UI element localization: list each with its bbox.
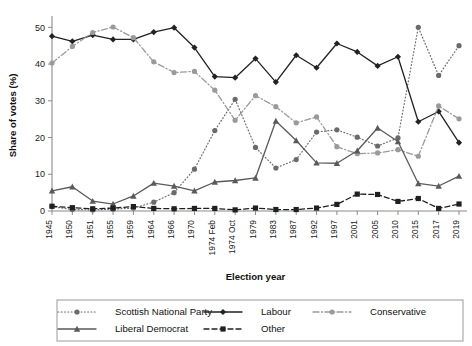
data-point[interactable] (151, 59, 156, 64)
series-other[interactable] (49, 192, 461, 213)
data-point[interactable] (212, 128, 217, 133)
data-point[interactable] (233, 207, 238, 212)
data-point[interactable] (172, 190, 177, 195)
data-point[interactable] (416, 25, 421, 30)
x-tick-label[interactable]: 1983 (268, 220, 278, 239)
data-point[interactable] (233, 118, 238, 123)
y-tick-label[interactable]: 50 (35, 23, 45, 33)
data-point[interactable] (415, 119, 421, 125)
data-point[interactable] (233, 97, 238, 102)
data-point[interactable] (334, 144, 339, 149)
x-tick-label[interactable]: 1959 (125, 220, 135, 239)
x-tick-label[interactable]: 1992 (309, 220, 319, 239)
data-point[interactable] (294, 207, 299, 212)
legend-marker[interactable] (220, 326, 225, 331)
data-point[interactable] (212, 206, 217, 211)
data-point[interactable] (212, 88, 217, 93)
data-point[interactable] (49, 60, 54, 65)
x-tick-label[interactable]: 2001 (349, 220, 359, 239)
x-axis-title[interactable]: Election year (226, 271, 286, 282)
x-tick-label[interactable]: 1966 (166, 220, 176, 239)
data-point[interactable] (110, 36, 116, 42)
data-point[interactable] (253, 145, 258, 150)
series-line[interactable] (52, 121, 459, 204)
data-point[interactable] (314, 114, 319, 119)
data-point[interactable] (273, 165, 278, 170)
data-point[interactable] (70, 44, 75, 49)
data-point[interactable] (253, 93, 258, 98)
x-tick-label[interactable]: 1955 (105, 220, 115, 239)
legend-label[interactable]: Liberal Democrat (115, 323, 188, 334)
data-point[interactable] (90, 206, 95, 211)
x-tick-label[interactable]: 2010 (390, 220, 400, 239)
y-tick-label[interactable]: 10 (35, 169, 45, 179)
y-tick-label[interactable]: 20 (35, 133, 45, 143)
legend-label[interactable]: Scottish National Party (115, 306, 212, 317)
data-point[interactable] (334, 202, 339, 207)
data-point[interactable] (192, 206, 197, 211)
x-tick-label[interactable]: 1951 (85, 220, 95, 239)
x-tick-label[interactable]: 1974 Oct (227, 219, 237, 254)
data-point[interactable] (131, 35, 136, 40)
data-point[interactable] (49, 33, 55, 39)
data-point[interactable] (172, 70, 177, 75)
data-point[interactable] (456, 201, 461, 206)
data-point[interactable] (172, 206, 177, 211)
data-point[interactable] (334, 127, 339, 132)
x-tick-label[interactable]: 2019 (451, 220, 461, 239)
legend-label[interactable]: Other (261, 323, 286, 334)
legend-marker[interactable] (74, 309, 79, 314)
data-point[interactable] (436, 103, 441, 108)
data-point[interactable] (395, 199, 400, 204)
data-point[interactable] (69, 184, 75, 190)
legend-item-other[interactable]: Other (204, 323, 286, 334)
x-tick-label[interactable]: 1987 (288, 220, 298, 239)
data-point[interactable] (374, 125, 380, 131)
data-point[interactable] (314, 205, 319, 210)
legend-label[interactable]: Conservative (370, 306, 426, 317)
data-point[interactable] (273, 207, 278, 212)
data-point[interactable] (375, 143, 380, 148)
x-tick-label[interactable]: 1970 (186, 220, 196, 239)
y-axis-title[interactable]: Share of votes (%) (7, 74, 18, 158)
legend-marker[interactable] (220, 309, 226, 315)
x-tick-label[interactable]: 2005 (370, 220, 380, 239)
legend-item-liberal-democrat[interactable]: Liberal Democrat (58, 323, 188, 334)
data-point[interactable] (192, 69, 197, 74)
legend-item-conservative[interactable]: Conservative (313, 306, 426, 317)
data-point[interactable] (375, 150, 380, 155)
x-tick-label[interactable]: 1964 (146, 220, 156, 239)
data-point[interactable] (456, 43, 461, 48)
x-tick-label[interactable]: 1950 (64, 220, 74, 239)
legend-item-labour[interactable]: Labour (204, 306, 292, 317)
data-point[interactable] (355, 135, 360, 140)
data-point[interactable] (151, 206, 156, 211)
data-point[interactable] (131, 204, 136, 209)
y-tick-label[interactable]: 0 (40, 206, 45, 216)
data-point[interactable] (253, 205, 258, 210)
data-point[interactable] (192, 167, 197, 172)
data-point[interactable] (294, 120, 299, 125)
data-point[interactable] (416, 196, 421, 201)
data-point[interactable] (151, 200, 156, 205)
legend-item-scottish-national-party[interactable]: Scottish National Party (58, 306, 212, 317)
series-liberal-democrat[interactable] (49, 118, 462, 207)
data-point[interactable] (110, 205, 115, 210)
data-point[interactable] (49, 204, 54, 209)
data-point[interactable] (273, 104, 278, 109)
x-tick-label[interactable]: 1997 (329, 220, 339, 239)
series-line[interactable] (52, 28, 459, 143)
x-tick-label[interactable]: 1945 (44, 220, 54, 239)
x-tick-label[interactable]: 1974 Feb (207, 220, 217, 256)
x-tick-label[interactable]: 1979 (248, 220, 258, 239)
data-point[interactable] (69, 38, 75, 44)
series-scottish-national-party[interactable] (49, 25, 461, 213)
data-point[interactable] (130, 193, 136, 199)
data-point[interactable] (70, 205, 75, 210)
data-point[interactable] (456, 116, 461, 121)
data-point[interactable] (314, 129, 319, 134)
data-point[interactable] (456, 173, 462, 179)
data-point[interactable] (375, 192, 380, 197)
y-tick-label[interactable]: 30 (35, 96, 45, 106)
data-point[interactable] (355, 192, 360, 197)
